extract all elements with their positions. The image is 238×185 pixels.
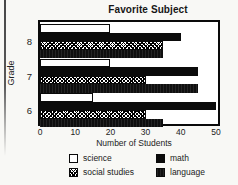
x-tick-label-10: 10 [70, 127, 79, 137]
legend-item-science: science [69, 153, 156, 163]
bar-science-grade-7 [40, 59, 110, 68]
legend-item-math: math [156, 153, 205, 163]
x-tick-label-20: 20 [106, 127, 115, 137]
y-tick-label-6: 6 [20, 105, 32, 116]
bar-math-grade-8 [40, 33, 181, 42]
bar-math-grade-7 [40, 67, 198, 76]
bar-math-grade-6 [40, 102, 216, 111]
y-tick-label-7: 7 [20, 70, 32, 81]
legend-label-math: math [170, 153, 189, 163]
x-tick-label-40: 40 [176, 127, 185, 137]
legend: sciencemathsocial studieslanguage [69, 153, 205, 177]
legend-label-science: science [83, 153, 112, 163]
legend-label-language: language [170, 167, 205, 177]
y-axis-label: Grade [6, 53, 16, 93]
bar-social-studies-grade-7 [40, 76, 146, 85]
chart-screenshot: Favorite Subject Grade 876 01020304050 N… [0, 0, 238, 185]
legend-swatch-science-icon [69, 154, 78, 163]
legend-swatch-math-icon [156, 154, 165, 163]
bar-social-studies-grade-6 [40, 110, 146, 119]
legend-swatch-social-studies-icon [69, 168, 78, 177]
y-tick-label-8: 8 [20, 36, 32, 47]
chart-title: Favorite Subject [60, 4, 236, 15]
x-tick-label-0: 0 [38, 127, 43, 137]
legend-swatch-language-icon [156, 168, 165, 177]
plot-area [38, 20, 220, 126]
x-axis-ticks: 01020304050 [40, 127, 218, 137]
legend-item-language: language [156, 167, 205, 177]
bar-group-grade-7 [40, 59, 198, 93]
bar-science-grade-6 [40, 93, 93, 102]
bar-social-studies-grade-8 [40, 41, 163, 50]
bar-science-grade-8 [40, 24, 110, 33]
bar-group-grade-8 [40, 24, 181, 58]
bar-group-grade-6 [40, 93, 216, 127]
x-tick-label-30: 30 [141, 127, 150, 137]
x-axis-label: Number of Students [38, 138, 230, 148]
legend-item-social-studies: social studies [69, 167, 156, 177]
legend-label-social-studies: social studies [83, 167, 134, 177]
x-tick-label-50: 50 [211, 127, 220, 137]
bar-language-grade-7 [40, 84, 198, 93]
bar-language-grade-8 [40, 50, 163, 59]
